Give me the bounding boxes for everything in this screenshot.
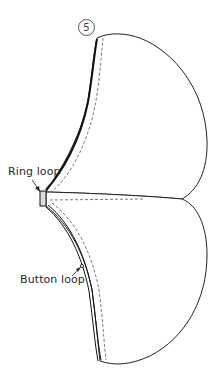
ring-loop-shape	[40, 191, 46, 206]
pattern-diagram: 5 Ring loop Button loop	[0, 0, 220, 384]
ring-loop-arrowhead	[35, 186, 40, 192]
step-number-badge: 5	[78, 19, 95, 36]
top-piece-outline	[46, 34, 207, 199]
button-loop-label: Button loop	[20, 273, 85, 286]
ring-loop-label: Ring loop	[8, 165, 61, 178]
garment-pieces-illustration	[0, 0, 220, 384]
